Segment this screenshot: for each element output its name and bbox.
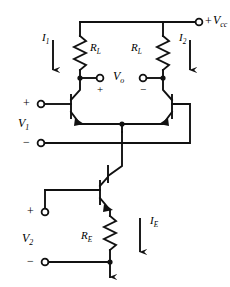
supply-label: Vcc	[213, 14, 227, 29]
input2-minus-sign: −	[27, 255, 34, 267]
resistor-rl-right-body	[157, 36, 169, 70]
q3-emitter-arrow	[103, 204, 113, 212]
resistor-rl-right-label: RL	[131, 42, 142, 56]
supply-plus-sign: +	[205, 15, 212, 27]
output-minus-sign: −	[140, 84, 146, 95]
node-re-bottom	[107, 259, 112, 264]
terminal-circles	[38, 19, 203, 266]
resistor-rl-left-label: RL	[90, 42, 101, 56]
terminal-vo-plus	[97, 75, 104, 82]
q2-collector-wire	[163, 78, 172, 100]
input2-plus-sign: +	[27, 205, 34, 217]
resistor-re-body	[104, 216, 116, 250]
input1-plus-sign: +	[23, 97, 30, 109]
output-plus-sign: +	[97, 84, 103, 95]
input1-label: V1	[18, 117, 29, 132]
terminal-vo-minus	[140, 75, 147, 82]
schematic-canvas	[0, 0, 230, 287]
circuit-diagram: + Vcc I1 I2 IE RL RL RE + Vo − + V1 − + …	[0, 0, 230, 287]
output-label: Vo	[113, 70, 124, 85]
current-ie-label: IE	[150, 215, 158, 229]
node-left-collector	[77, 75, 82, 80]
node-common-emitter	[119, 121, 124, 126]
terminal-v2-plus	[42, 209, 49, 216]
q3-collector-wire	[100, 166, 108, 186]
current-i1-label: I1	[42, 32, 49, 46]
input2-label: V2	[22, 232, 33, 247]
resistor-re-label: RE	[81, 230, 92, 244]
terminal-v1-minus	[38, 140, 45, 147]
input1-minus-sign: −	[23, 136, 30, 148]
resistor-rl-left-body	[74, 36, 86, 70]
tail-drop-wire	[108, 132, 122, 182]
q1-collector-wire	[71, 78, 80, 100]
terminal-vcc	[196, 19, 203, 26]
current-i2-label: I2	[179, 32, 186, 46]
node-right-collector	[160, 75, 165, 80]
terminal-v2-minus	[42, 259, 49, 266]
terminal-v1-plus	[38, 101, 45, 108]
